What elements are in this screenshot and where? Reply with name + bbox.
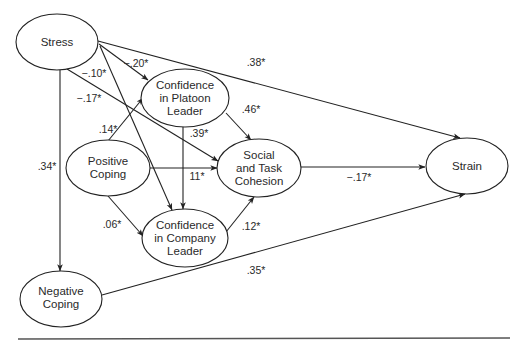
platoon-label-line2: in Platoon — [159, 92, 210, 104]
stress-label: Stress — [41, 36, 74, 48]
company-label-line3: Leader — [167, 245, 203, 257]
edge-platoon-social — [226, 113, 251, 140]
node-social-task-cohesion: Social and Task Cohesion — [217, 139, 301, 197]
node-confidence-platoon: Confidence in Platoon Leader — [141, 69, 229, 127]
node-confidence-company: Confidence in Company Leader — [142, 209, 228, 267]
company-label-line2: in Company — [154, 232, 216, 244]
node-strain: Strain — [426, 138, 508, 194]
label-stress-platoon: −.20* — [124, 57, 149, 69]
label-positive-company: .06* — [103, 218, 122, 230]
label-stress-negative: .34* — [38, 160, 57, 172]
label-stress-company: −.10* — [82, 67, 107, 79]
node-stress: Stress — [16, 14, 98, 70]
positive-label-line2: Coping — [90, 168, 126, 180]
label-positive-social: 11* — [190, 170, 205, 182]
platoon-label-line3: Leader — [167, 105, 203, 117]
company-label-line1: Confidence — [156, 219, 214, 231]
negative-label-line2: Coping — [43, 298, 79, 310]
platoon-label-line1: Confidence — [156, 79, 214, 91]
label-stress-social: −.17* — [77, 92, 102, 104]
label-social-strain: −.17* — [347, 171, 372, 183]
social-label-line2: and Task — [236, 162, 282, 174]
positive-label-line1: Positive — [88, 155, 128, 167]
social-label-line3: Cohesion — [235, 175, 284, 187]
label-platoon-social: .46* — [242, 103, 261, 115]
node-negative-coping: Negative Coping — [20, 271, 102, 327]
path-diagram: Stress Confidence in Platoon Leader Posi… — [0, 0, 525, 347]
label-platoon-company: .39* — [190, 127, 209, 139]
label-positive-platoon: .14* — [99, 123, 118, 135]
label-negative-strain: .35* — [247, 264, 266, 276]
strain-label: Strain — [452, 160, 482, 172]
negative-label-line1: Negative — [38, 285, 83, 297]
label-company-social: .12* — [242, 220, 261, 232]
edge-positive-company — [108, 196, 143, 236]
social-label-line1: Social — [243, 149, 274, 161]
node-positive-coping: Positive Coping — [66, 140, 150, 196]
label-stress-strain: .38* — [247, 56, 266, 68]
bottom-rule-divider — [18, 338, 510, 339]
